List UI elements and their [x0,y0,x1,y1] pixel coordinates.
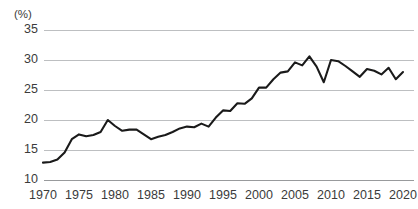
x-tick-label-2005: 2005 [281,188,309,202]
x-axis-labels: 1970 1975 1980 1985 1990 1995 2000 2005 … [29,188,417,202]
gridlines [44,30,414,180]
x-tick-label-1980: 1980 [101,188,129,202]
y-tick-label-15: 15 [24,142,38,156]
x-tick-label-1970: 1970 [29,188,57,202]
y-axis-labels: (%) 35 30 25 20 15 10 [14,8,38,186]
x-tick-label-1995: 1995 [209,188,237,202]
chart-container: (%) 35 30 25 20 15 10 1970 1975 1980 198… [0,0,418,209]
x-tick-label-2020: 2020 [389,188,417,202]
y-tick-label-35: 35 [24,22,38,36]
x-tick-label-2015: 2015 [353,188,381,202]
y-tick-label-30: 30 [24,52,38,66]
x-tick-label-1975: 1975 [65,188,93,202]
y-axis-unit-label: (%) [14,8,32,20]
x-tick-label-2010: 2010 [317,188,345,202]
x-tick-label-1985: 1985 [137,188,165,202]
y-tick-label-25: 25 [24,82,38,96]
y-tick-label-20: 20 [24,112,38,126]
data-series-line [43,56,403,162]
y-tick-label-10: 10 [24,172,38,186]
line-chart: (%) 35 30 25 20 15 10 1970 1975 1980 198… [0,0,418,209]
x-tick-label-1990: 1990 [173,188,201,202]
x-tick-label-2000: 2000 [245,188,273,202]
